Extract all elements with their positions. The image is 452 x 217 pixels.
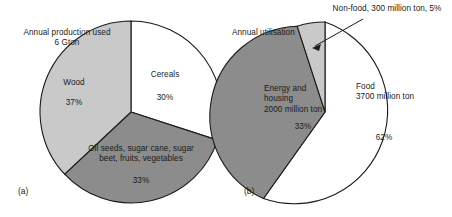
figure-container: Annual production used 6 Gton Wood 37% C… (0, 0, 452, 217)
pie-a-title: Annual production used 6 Gton (6, 28, 128, 49)
slice-value-oilseeds: 33% (84, 176, 198, 186)
slice-label-food-line2: 3700 million ton (356, 92, 414, 101)
slice-label-energy-line2: housing (264, 94, 293, 103)
slice-value-food: 62% (362, 133, 406, 143)
slice-value-wood: 37% (46, 98, 102, 108)
slice-value-cereals: 30% (140, 93, 190, 103)
panel-caption-b: (b) (244, 186, 254, 196)
pie-a-title-line2: 6 Gton (55, 38, 80, 47)
slice-label-oilseeds: Oil seeds, sugar cane, sugar beet, fruit… (84, 144, 198, 165)
callout-label-non-food: Non-food, 300 million ton, 5% (324, 4, 450, 14)
slice-label-cereals: Cereals (140, 70, 190, 80)
pie-b-title: Annual utilisation (232, 28, 326, 38)
slice-label-food-line1: Food (356, 82, 375, 91)
slice-label-food: Food 3700 million ton (356, 82, 434, 103)
slice-label-wood: Wood (46, 78, 102, 88)
slice-label-energy-line3: 2000 million ton (264, 105, 322, 114)
slice-value-energy-housing: 33% (264, 122, 342, 132)
pie-chart-a: Annual production used 6 Gton Wood 37% C… (0, 0, 226, 217)
slice-label-energy-housing: Energy and housing 2000 million ton (264, 84, 342, 115)
pie-a-title-line1: Annual production used (23, 28, 110, 37)
slice-label-energy-line1: Energy and (264, 84, 306, 93)
pie-chart-b: Non-food, 300 million ton, 5% Annual uti… (226, 0, 452, 217)
panel-caption-a: (a) (18, 186, 28, 196)
